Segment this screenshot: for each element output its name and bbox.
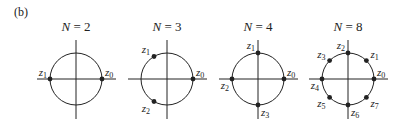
root-point <box>282 77 287 82</box>
root-label: z1 <box>246 39 255 53</box>
root-label: z6 <box>350 106 359 120</box>
roots-of-unity-figure: (b) N = 2z0z1N = 3z0z1z2N = 4z0z1z2z3N =… <box>0 0 399 123</box>
root-label: z7 <box>369 97 378 111</box>
diagram-title: N = 8 <box>332 19 362 34</box>
root-point <box>230 77 235 82</box>
root-point <box>256 103 261 108</box>
root-label: z1 <box>38 66 47 80</box>
root-point <box>191 77 196 82</box>
root-point <box>256 51 261 56</box>
root-label: z1 <box>141 43 150 57</box>
root-point <box>346 103 351 108</box>
root-label: z0 <box>286 66 295 80</box>
root-label: z4 <box>310 79 319 93</box>
root-label: z1 <box>369 48 378 62</box>
root-label: z0 <box>195 66 204 80</box>
root-point <box>100 77 105 82</box>
root-point <box>152 99 157 104</box>
root-label: z3 <box>316 48 325 62</box>
root-label: z2 <box>336 39 345 53</box>
root-point <box>327 58 332 63</box>
root-point <box>372 77 377 82</box>
root-point <box>346 51 351 56</box>
root-point <box>364 58 369 63</box>
root-label: z3 <box>260 106 269 120</box>
root-point <box>364 95 369 100</box>
root-label: z0 <box>104 66 113 80</box>
diagram-title: N = 2 <box>60 19 90 34</box>
root-label: z5 <box>316 97 325 111</box>
root-label: z2 <box>220 79 229 93</box>
diagram-title: N = 4 <box>242 19 273 34</box>
root-point <box>327 95 332 100</box>
root-point <box>320 77 325 82</box>
root-label: z0 <box>376 66 385 80</box>
panel-label: (b) <box>14 5 28 19</box>
diagram-title: N = 3 <box>151 19 181 34</box>
root-label: z2 <box>141 102 150 116</box>
root-point <box>152 54 157 59</box>
root-point <box>48 77 53 82</box>
